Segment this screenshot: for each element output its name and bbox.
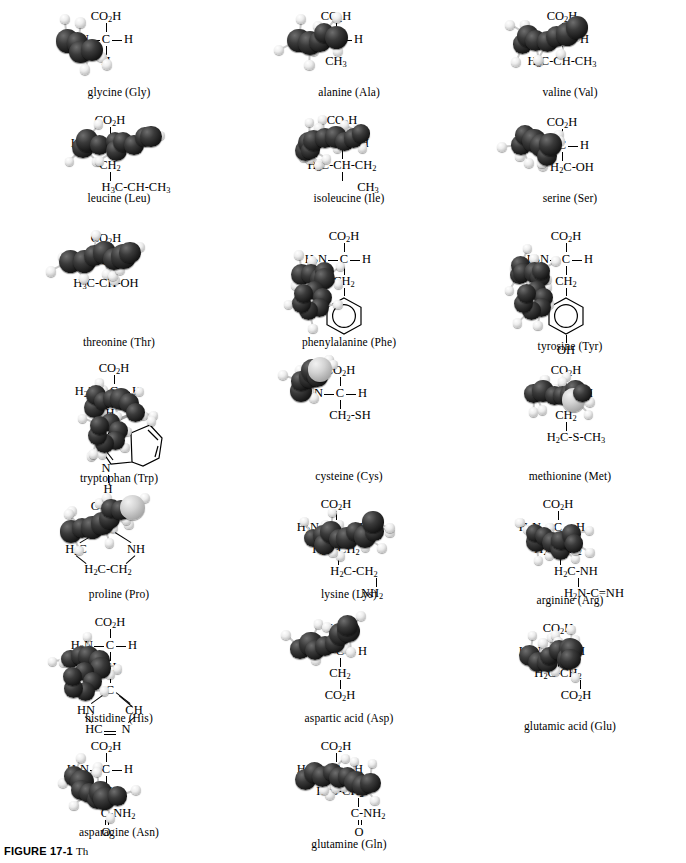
formula-chain-2: H2C-NH bbox=[554, 565, 598, 579]
structural-formula: CO2HH2NCHCH2H2C-S-CH3 bbox=[578, 352, 686, 484]
bond-c-to-h bbox=[116, 646, 126, 647]
amino-acid-cell-asparagine: CO2HH2NCHCH2C-NH2Oasparagine (Asn) bbox=[6, 732, 232, 844]
formula-phenylalanine: CO2HH2NCHCH2 bbox=[358, 218, 468, 350]
atom-carbon bbox=[352, 124, 371, 143]
amino-acid-cell-methionine: CO2HH2NCHCH2H2C-S-CH3methionine (Met) bbox=[458, 352, 682, 484]
figure-trailing-text: Th bbox=[76, 845, 88, 857]
atom-hydrogen bbox=[497, 142, 507, 152]
atom-hydrogen bbox=[79, 273, 89, 283]
atom-hydrogen bbox=[332, 12, 342, 22]
caption-tryptophan: tryptophan (Trp) bbox=[6, 472, 232, 484]
atom-hydrogen bbox=[296, 14, 306, 24]
atom-hydrogen bbox=[106, 813, 116, 823]
amino-acid-cell-proline: CO2HCHH2CNHH2C-CH2proline (Pro) bbox=[6, 490, 232, 606]
atom-hydrogen bbox=[105, 538, 115, 548]
bond-c-to-h bbox=[572, 260, 582, 261]
caption-serine: serine (Ser) bbox=[458, 192, 682, 204]
formula-chain-2: CO2H bbox=[325, 689, 356, 703]
structural-formula: CO2HH2NCHH2C-CH2H2C-NHH2N-C=NH bbox=[578, 490, 686, 606]
atom-carbon bbox=[108, 786, 128, 806]
atom-hydrogen bbox=[377, 543, 386, 552]
atom-hydrogen bbox=[513, 318, 522, 327]
atom-hydrogen bbox=[346, 647, 356, 657]
atom-hydrogen bbox=[75, 17, 85, 27]
formula-ring-base: H2C-CH2 bbox=[84, 563, 131, 577]
caption-glycine: glycine (Gly) bbox=[6, 86, 232, 98]
caption-cysteine: cysteine (Cys) bbox=[236, 470, 462, 482]
atom-hydrogen bbox=[131, 785, 141, 795]
atom-carbon bbox=[539, 133, 562, 156]
atom-hydrogen bbox=[95, 156, 104, 165]
atom-carbon bbox=[560, 649, 581, 670]
atom-carbon bbox=[566, 16, 588, 38]
bond-c-to-co2h bbox=[340, 377, 341, 386]
bond-n-to-c bbox=[328, 260, 338, 261]
caption-lysine: lysine (Lys) bbox=[236, 588, 462, 600]
model-threonine bbox=[14, 222, 144, 310]
amino-acid-cell-serine: CO2HH2NCHH2C-OHserine (Ser) bbox=[458, 108, 682, 212]
bond-n-to-c bbox=[94, 646, 104, 647]
formula-glutamic-acid: CO2HH2NCHH2C-CH2CO2H bbox=[578, 608, 686, 728]
amino-acid-cell-valine: CO2HH2NCHH3C-CH-CH3valine (Val) bbox=[458, 2, 682, 106]
atom-hydrogen bbox=[48, 657, 57, 666]
amino-acid-cell-glutamine: CO2HH2NCHH2C-CH2C-NH2Oglutamine (Gln) bbox=[236, 732, 462, 844]
bond-c-to-co2h bbox=[344, 243, 345, 252]
amino-acid-cell-tyrosine: CO2HH2NCHCH2OHtyrosine (Tyr) bbox=[458, 218, 682, 350]
amino-acid-cell-glycine: CO2HH2NCHHglycine (Gly) bbox=[6, 2, 232, 106]
model-glycine bbox=[14, 6, 144, 86]
bond-ch2-to-ring bbox=[344, 288, 345, 296]
atom-sulfur bbox=[308, 357, 333, 382]
formula-arginine: CO2HH2NCHH2C-CH2H2C-NHH2N-C=NH bbox=[578, 490, 686, 606]
formula-alpha-hydrogen: H bbox=[358, 387, 367, 400]
atom-hydrogen bbox=[385, 523, 394, 532]
atom-hydrogen bbox=[102, 59, 112, 69]
caption-methionine: methionine (Met) bbox=[458, 470, 682, 482]
bond-chain-link-0 bbox=[580, 680, 581, 689]
atom-hydrogen bbox=[533, 321, 542, 330]
amino-acid-cell-leucine: CO2HH2NCHCH2H3C-CH-CH3leucine (Leu) bbox=[6, 108, 232, 212]
amino-acid-cell-alanine: CO2HH2NCHCH3alanine (Ala) bbox=[236, 2, 462, 106]
amino-acid-cell-cysteine: CO2HH2NCHCH2-SHcysteine (Cys) bbox=[236, 352, 462, 484]
bond-c-to-h bbox=[568, 146, 578, 147]
formula-alpha-hydrogen: H bbox=[580, 139, 589, 152]
amino-acid-cell-aspartic-acid: CO2HH2NCHCH2CO2Haspartic acid (Asp) bbox=[236, 608, 462, 728]
model-alanine bbox=[244, 6, 374, 86]
formula-chain-1: H2C-OH bbox=[550, 161, 594, 175]
atom-hydrogen bbox=[511, 57, 521, 67]
atom-hydrogen bbox=[551, 256, 560, 265]
formula-alpha-hydrogen: H bbox=[128, 639, 137, 652]
formula-alpha-hydrogen: H bbox=[124, 763, 133, 776]
amino-acid-cell-histidine: CO2HH2NCHCH2CHNCHHCNhistidine (His) bbox=[6, 608, 232, 728]
figure-label: FIGURE 17-1 Th bbox=[4, 845, 88, 857]
structural-formula: CO2HH2NCHCH2CHNCHHCN bbox=[128, 608, 248, 728]
structural-formula: CO2HH2NCHCH2OH bbox=[578, 218, 686, 350]
caption-proline: proline (Pro) bbox=[6, 588, 232, 600]
atom-carbon bbox=[325, 26, 348, 49]
atom-hydrogen bbox=[341, 754, 351, 764]
atom-hydrogen bbox=[566, 625, 575, 634]
atom-hydrogen bbox=[515, 518, 524, 527]
formula-chain-2: H2C-CH2 bbox=[330, 565, 377, 579]
atom-carbon bbox=[517, 284, 536, 303]
atom-hydrogen bbox=[76, 753, 86, 763]
formula-alpha-hydrogen: H bbox=[124, 33, 133, 46]
atom-hydrogen bbox=[46, 266, 56, 276]
figure-number: FIGURE 17-1 bbox=[4, 845, 73, 857]
atom-hydrogen bbox=[585, 548, 594, 557]
atom-hydrogen bbox=[534, 556, 543, 565]
formula-alpha-carbon: C bbox=[336, 387, 344, 400]
atom-hydrogen bbox=[294, 250, 303, 259]
structural-formula: CO2HH2NCHH3C-CH-OH bbox=[128, 218, 248, 350]
caption-isoleucine: isoleucine (Ile) bbox=[236, 192, 462, 204]
atom-carbon bbox=[63, 667, 82, 686]
atom-hydrogen bbox=[308, 324, 317, 333]
formula-alpha-carbon: C bbox=[102, 763, 110, 776]
molecular-model bbox=[14, 6, 144, 86]
formula-amide: C-NH2 bbox=[351, 807, 386, 821]
bond-c-to-h bbox=[112, 40, 122, 41]
formula-aspartic-acid: CO2HH2NCHCH2CO2H bbox=[358, 608, 468, 728]
molecular-model bbox=[244, 6, 374, 86]
formula-alpha-hydrogen: H bbox=[584, 253, 593, 266]
formula-alpha-carbon: C bbox=[102, 33, 110, 46]
atom-hydrogen bbox=[304, 60, 314, 70]
